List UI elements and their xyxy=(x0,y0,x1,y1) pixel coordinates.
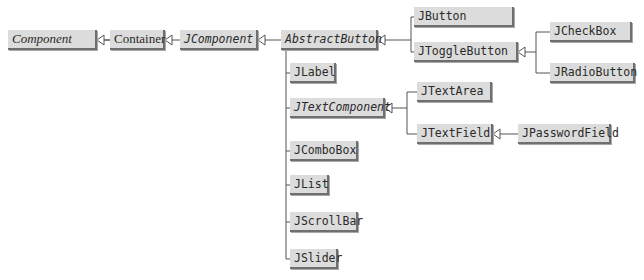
class-box-jslider: JSlider xyxy=(290,249,338,269)
class-box-container: Container xyxy=(110,30,165,50)
class-box-jtextarea: JTextArea xyxy=(417,82,492,102)
class-hierarchy-diagram: Component Container JComponent AbstractB… xyxy=(0,0,644,280)
class-box-jpasswordfield: JPasswordField xyxy=(518,124,611,144)
class-label: JList xyxy=(294,177,329,191)
class-box-jcomponent: JComponent xyxy=(180,30,258,50)
class-label: JTextArea xyxy=(421,84,483,98)
class-label: Component xyxy=(12,31,72,47)
class-box-abstractbutton: AbstractButton xyxy=(281,30,378,50)
class-label: AbstractButton xyxy=(285,32,382,46)
class-label: Container xyxy=(114,31,165,47)
class-label: JComponent xyxy=(184,32,253,46)
class-label: JToggleButton xyxy=(418,44,508,58)
class-box-jlist: JList xyxy=(290,175,329,195)
class-box-jtextcomponent: JTextComponent xyxy=(290,98,385,118)
class-label: JTextField xyxy=(421,126,490,140)
class-label: JPasswordField xyxy=(522,126,619,140)
class-box-jradiobutton: JRadioButton xyxy=(550,63,635,83)
class-label: JComboBox xyxy=(294,143,356,157)
class-box-jlabel: JLabel xyxy=(290,63,336,83)
class-label: JCheckBox xyxy=(554,24,616,38)
class-box-jscrollbar: JScrollBar xyxy=(290,212,358,232)
class-label: JLabel xyxy=(294,65,336,79)
class-box-jbutton: JButton xyxy=(414,7,514,27)
class-box-component: Component xyxy=(8,30,97,50)
class-box-jtogglebutton: JToggleButton xyxy=(414,42,518,62)
class-box-jcheckbox: JCheckBox xyxy=(550,22,632,42)
class-label: JSlider xyxy=(294,251,342,265)
class-label: JRadioButton xyxy=(554,65,637,79)
class-label: JButton xyxy=(418,9,466,23)
class-box-jtextfield: JTextField xyxy=(417,124,493,144)
class-box-jcombobox: JComboBox xyxy=(290,141,358,161)
class-label: JScrollBar xyxy=(294,214,363,228)
class-label: JTextComponent xyxy=(294,100,391,114)
